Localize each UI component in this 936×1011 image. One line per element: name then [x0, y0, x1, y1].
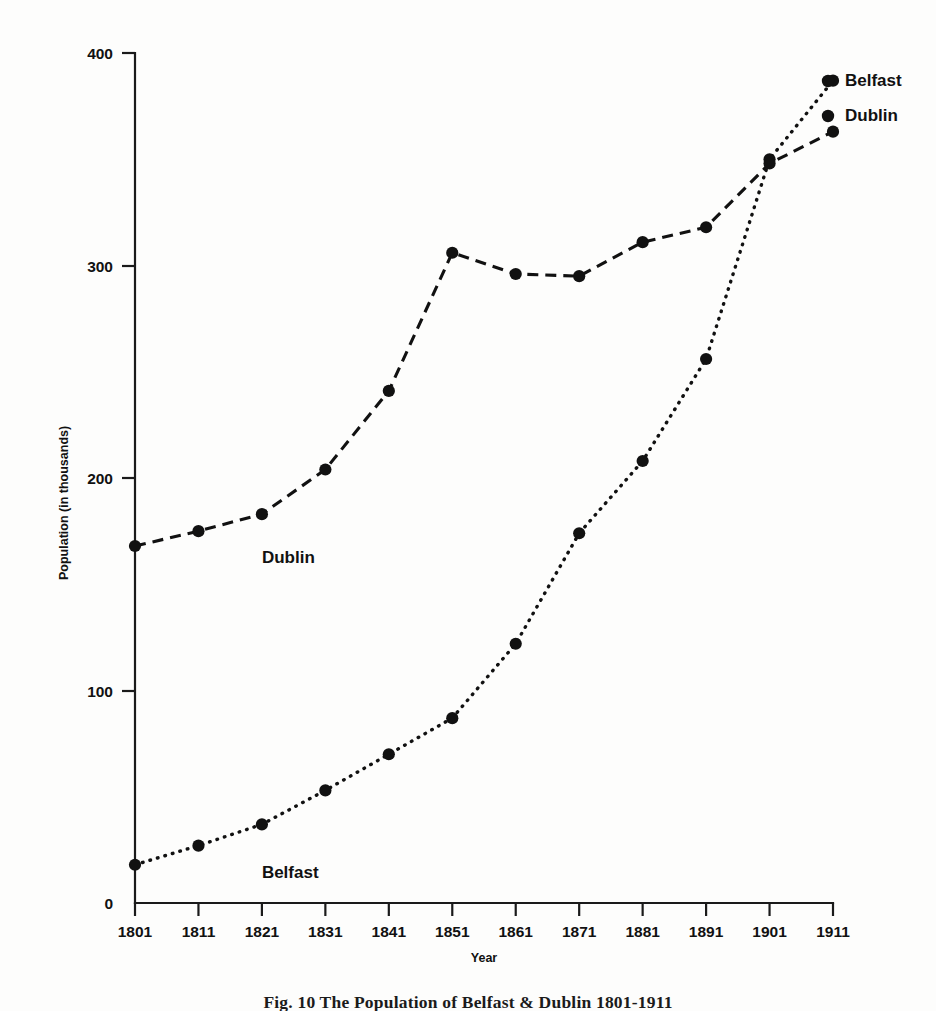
x-tick-label-1801: 1801 [118, 923, 153, 940]
x-tick-label-1881: 1881 [625, 923, 660, 940]
data-point-dublin-1871 [573, 270, 585, 282]
x-axis-tick-labels: 1801181118211831184118511861187118811891… [118, 923, 850, 940]
data-point-dublin-1821 [256, 508, 268, 520]
x-tick-label-1851: 1851 [435, 923, 470, 940]
data-point-dublin-1811 [192, 525, 204, 537]
series-markers-dublin [129, 126, 839, 553]
data-point-belfast-1801 [129, 859, 141, 871]
data-point-belfast-1871 [573, 527, 585, 539]
inline-label-belfast: Belfast [262, 863, 319, 882]
data-point-belfast-1851 [446, 712, 458, 724]
x-tick-label-1891: 1891 [689, 923, 724, 940]
data-point-dublin-1841 [383, 385, 395, 397]
data-point-dublin-1881 [637, 236, 649, 248]
y-tick-label-300: 300 [87, 258, 113, 275]
data-point-dublin-1861 [510, 268, 522, 280]
data-point-dublin-1801 [129, 540, 141, 552]
y-axis-tick-labels: 400 300 200 100 0 [87, 45, 113, 912]
x-tick-label-1811: 1811 [182, 923, 216, 940]
legend-marker-dublin [822, 110, 834, 122]
data-point-dublin-1911 [827, 126, 839, 138]
x-axis-ticks [135, 903, 833, 916]
x-tick-label-1911: 1911 [816, 923, 850, 940]
data-point-belfast-1881 [637, 455, 649, 467]
data-point-belfast-1891 [700, 353, 712, 365]
x-tick-label-1901: 1901 [752, 923, 787, 940]
figure-container: 400 300 200 100 0 Population (in thousan… [0, 0, 936, 1011]
population-line-chart: 400 300 200 100 0 Population (in thousan… [0, 0, 936, 1011]
data-point-belfast-1811 [192, 840, 204, 852]
legend-label-dublin: Dublin [845, 106, 898, 125]
data-point-dublin-1831 [319, 463, 331, 475]
inline-label-dublin: Dublin [262, 548, 315, 567]
series-markers-belfast [129, 75, 839, 871]
x-axis-title: Year [471, 951, 498, 965]
x-tick-label-1841: 1841 [372, 923, 407, 940]
data-point-belfast-1821 [256, 818, 268, 830]
y-tick-label-200: 200 [87, 470, 113, 487]
x-tick-label-1871: 1871 [562, 923, 597, 940]
legend: Belfast Dublin [822, 71, 902, 125]
data-point-belfast-1841 [383, 748, 395, 760]
data-point-dublin-1851 [446, 247, 458, 259]
series-line-dublin [135, 132, 833, 546]
y-tick-label-400: 400 [87, 45, 113, 62]
y-axis-ticks [122, 53, 135, 691]
x-tick-label-1861: 1861 [498, 923, 533, 940]
series-line-belfast [135, 81, 833, 865]
y-tick-label-0: 0 [104, 895, 113, 912]
data-point-belfast-1861 [510, 638, 522, 650]
legend-label-belfast: Belfast [845, 71, 902, 90]
data-point-belfast-1831 [319, 784, 331, 796]
x-tick-label-1821: 1821 [245, 923, 280, 940]
data-point-dublin-1901 [763, 157, 775, 169]
y-tick-label-100: 100 [87, 683, 113, 700]
legend-marker-belfast [822, 75, 834, 87]
data-point-dublin-1891 [700, 221, 712, 233]
figure-caption: Fig. 10 The Population of Belfast & Dubl… [0, 992, 936, 1011]
x-tick-label-1831: 1831 [308, 923, 343, 940]
chart-axes [135, 53, 833, 903]
y-axis-title: Population (in thousands) [57, 426, 71, 580]
